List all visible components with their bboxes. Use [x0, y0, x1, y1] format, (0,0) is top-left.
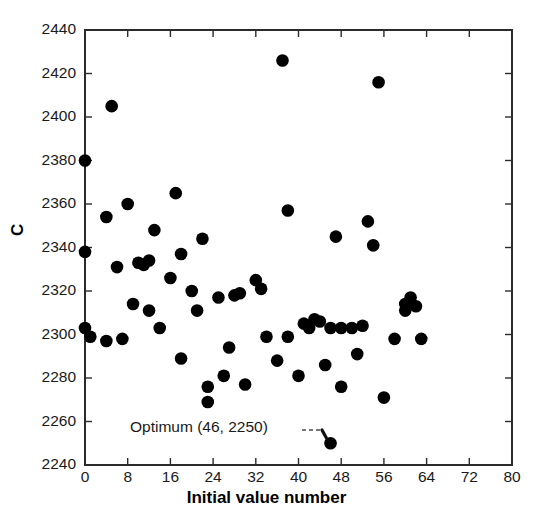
data-point [185, 285, 198, 298]
data-point [111, 261, 124, 274]
data-point [100, 211, 113, 224]
data-point [79, 154, 92, 167]
data-point [127, 298, 140, 311]
axis-ticks [85, 30, 512, 465]
data-point [233, 287, 246, 300]
data-point [276, 54, 289, 67]
data-point [271, 354, 284, 367]
data-point [255, 283, 268, 296]
data-point [362, 215, 375, 228]
data-point [372, 76, 385, 89]
data-point [223, 341, 236, 354]
data-point [191, 304, 204, 317]
data-point [164, 272, 177, 285]
plot-area [0, 0, 533, 520]
data-point [217, 370, 230, 383]
data-point [319, 359, 332, 372]
data-point [116, 333, 129, 346]
data-point [282, 330, 295, 343]
data-point [143, 254, 156, 267]
data-point [169, 187, 182, 200]
data-point [260, 330, 273, 343]
annotation-leader [302, 430, 327, 438]
data-point [330, 230, 343, 243]
data-point [175, 248, 188, 261]
data-point [148, 224, 161, 237]
data-point [121, 198, 134, 211]
data-point [153, 322, 166, 335]
data-point [84, 330, 97, 343]
data-point [378, 391, 391, 404]
data-point [388, 333, 401, 346]
data-point [335, 380, 348, 393]
data-point [201, 396, 214, 409]
data-point [79, 246, 92, 259]
axis-frame [85, 30, 512, 465]
data-point [100, 335, 113, 348]
data-point [415, 333, 428, 346]
data-point [212, 291, 225, 304]
data-point [356, 320, 369, 333]
data-point [346, 322, 359, 335]
data-point [201, 380, 214, 393]
data-point [143, 304, 156, 317]
data-point [196, 233, 209, 246]
data-point [314, 315, 327, 328]
data-point [282, 204, 295, 217]
scatter-chart-figure: C Initial value number 22402260228023002… [0, 0, 533, 520]
data-point [239, 378, 252, 391]
data-point [351, 348, 364, 361]
data-point [367, 239, 380, 252]
data-point [175, 352, 188, 365]
data-point [292, 370, 305, 383]
data-point [105, 100, 118, 113]
data-point [410, 300, 423, 313]
data-points [79, 54, 428, 449]
